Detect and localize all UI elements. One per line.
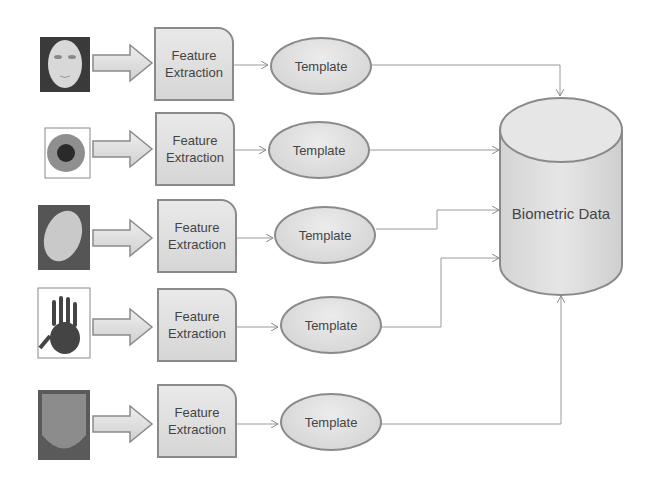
block-arrows bbox=[93, 45, 152, 442]
fingerprint-image bbox=[37, 205, 90, 270]
database-cylinder bbox=[500, 98, 622, 295]
template-node: Template bbox=[280, 296, 382, 354]
template-label: Template bbox=[299, 228, 352, 243]
block-arrow-icon bbox=[93, 45, 152, 81]
template-node: Template bbox=[270, 37, 372, 95]
iris-image bbox=[45, 128, 90, 178]
template-node: Template bbox=[274, 206, 376, 264]
feature-extraction-box: Feature Extraction bbox=[155, 112, 235, 186]
database-label: Biometric Data bbox=[500, 205, 622, 222]
feature-extraction-label: Extraction bbox=[168, 236, 226, 253]
block-arrow-icon bbox=[93, 131, 152, 167]
template-label: Template bbox=[305, 318, 358, 333]
feature-extraction-label: Feature bbox=[175, 404, 220, 421]
block-arrow-icon bbox=[93, 309, 152, 345]
feature-extraction-box: Feature Extraction bbox=[157, 199, 237, 273]
feature-extraction-label: Feature bbox=[172, 47, 217, 64]
block-arrow-icon bbox=[93, 406, 152, 442]
feature-extraction-box: Feature Extraction bbox=[157, 288, 237, 362]
template-node: Template bbox=[268, 121, 370, 179]
template-node: Template bbox=[280, 393, 382, 451]
feature-extraction-label: Extraction bbox=[165, 64, 223, 81]
feature-extraction-label: Extraction bbox=[168, 325, 226, 342]
feature-extraction-label: Feature bbox=[175, 308, 220, 325]
feature-extraction-label: Extraction bbox=[166, 149, 224, 166]
feature-extraction-label: Feature bbox=[173, 132, 218, 149]
feature-extraction-label: Feature bbox=[175, 219, 220, 236]
template-label: Template bbox=[295, 59, 348, 74]
template-label: Template bbox=[305, 415, 358, 430]
block-arrow-icon bbox=[93, 220, 152, 256]
tongue-image bbox=[38, 390, 90, 460]
template-label: Template bbox=[293, 143, 346, 158]
feature-extraction-box: Feature Extraction bbox=[154, 27, 234, 101]
feature-extraction-box: Feature Extraction bbox=[157, 384, 237, 458]
palmprint-image bbox=[38, 288, 90, 358]
face-image bbox=[40, 37, 90, 92]
feature-extraction-label: Extraction bbox=[168, 421, 226, 438]
